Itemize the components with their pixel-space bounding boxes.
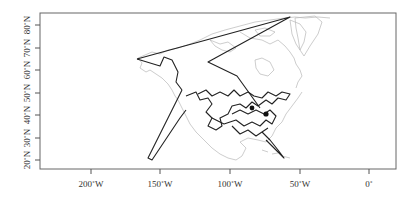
y-tick-label: 30˚N xyxy=(22,128,32,147)
x-tick-label: 100˚W xyxy=(218,179,243,189)
y-axis: 80˚N 70˚N 60˚N 50˚N 40˚N 30˚N 20˚N xyxy=(22,15,40,169)
route-map: 80˚N 70˚N 60˚N 50˚N 40˚N 30˚N 20˚N 200˚W… xyxy=(0,0,416,201)
x-tick-label: 200˚W xyxy=(79,179,104,189)
y-tick-label: 40˚N xyxy=(22,105,32,124)
y-tick-label: 60˚N xyxy=(22,60,32,79)
x-tick-label: 0˚ xyxy=(365,179,373,189)
route-path xyxy=(137,17,290,160)
y-tick-label: 50˚N xyxy=(22,83,32,102)
y-tick-label: 80˚N xyxy=(22,15,32,34)
x-tick-label: 150˚W xyxy=(148,179,173,189)
y-tick-label: 20˚N xyxy=(22,150,32,169)
y-tick-label: 70˚N xyxy=(22,38,32,57)
x-tick-label: 50˚W xyxy=(290,179,311,189)
x-axis: 200˚W 150˚W 100˚W 50˚W 0˚ xyxy=(79,169,373,189)
